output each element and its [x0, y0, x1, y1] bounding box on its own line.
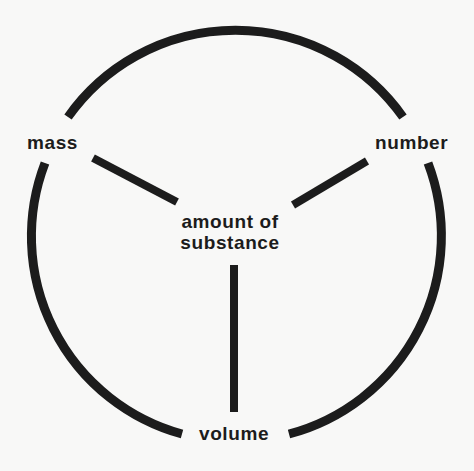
node-number-label: number [375, 132, 448, 153]
center-label-line2: substance [166, 232, 294, 253]
center-label: amount of substance [166, 211, 294, 253]
arc-mass-volume [31, 163, 182, 434]
center-label-line1: amount of [166, 211, 294, 232]
spoke-to-mass [93, 158, 177, 202]
diagram-canvas: mass number amount of substance volume [0, 0, 474, 471]
spoke-to-number [293, 161, 367, 205]
node-mass-label: mass [27, 132, 78, 153]
node-volume-label: volume [199, 423, 269, 444]
arc-mass-number [68, 30, 403, 117]
arc-number-volume [289, 163, 441, 434]
